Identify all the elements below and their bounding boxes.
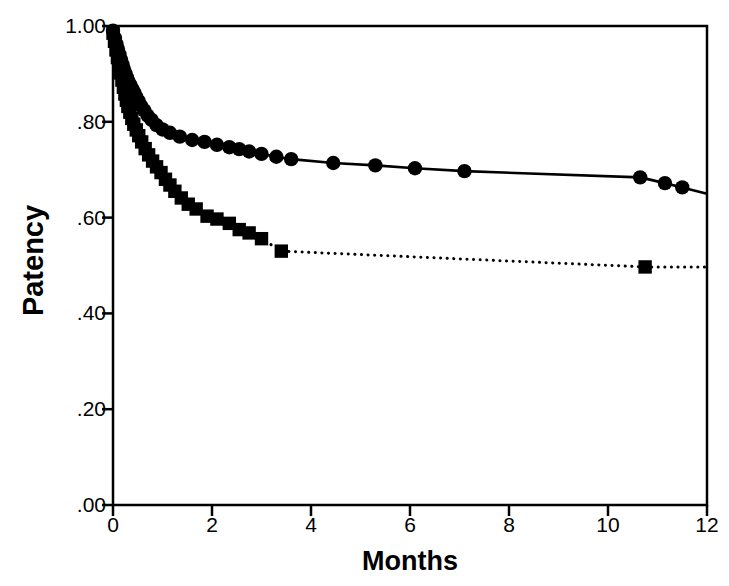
y-tick-label: .60 <box>44 206 106 230</box>
series-line-square <box>113 33 707 267</box>
data-point-circle <box>675 180 689 194</box>
x-tick-label: 10 <box>596 513 619 537</box>
data-point-circle <box>254 147 268 161</box>
x-tick-label: 6 <box>404 513 416 537</box>
data-point-circle <box>284 152 298 166</box>
data-point-circle <box>173 129 187 143</box>
x-axis-title: Months <box>113 546 707 577</box>
data-point-circle <box>326 156 340 170</box>
data-point-circle <box>658 176 672 190</box>
data-point-circle <box>197 135 211 149</box>
x-tick-label: 4 <box>305 513 317 537</box>
data-point-circle <box>269 150 283 164</box>
data-series-group <box>106 24 707 274</box>
patency-chart-figure: Patency 1.00.80.60.40.20.00 Months 02468… <box>0 0 729 586</box>
x-tick-label: 0 <box>107 513 119 537</box>
data-point-circle <box>368 158 382 172</box>
x-tick-label: 2 <box>206 513 218 537</box>
x-tick-label: 12 <box>695 513 718 537</box>
data-point-square <box>242 226 255 239</box>
x-tick-label: 8 <box>503 513 515 537</box>
data-point-circle <box>210 138 224 152</box>
y-tick-label: .40 <box>44 301 106 325</box>
data-point-circle <box>242 144 256 158</box>
data-point-square <box>255 232 268 245</box>
y-axis-tick-labels: 1.00.80.60.40.20.00 <box>40 0 106 586</box>
data-point-square <box>638 260 651 273</box>
y-tick-label: .20 <box>44 397 106 421</box>
plot-area <box>0 0 729 586</box>
data-point-circle <box>408 161 422 175</box>
data-point-square <box>275 244 288 257</box>
y-tick-label: .80 <box>44 110 106 134</box>
data-point-square <box>210 212 223 225</box>
y-tick-label: 1.00 <box>44 14 106 38</box>
data-point-circle <box>185 133 199 147</box>
data-point-circle <box>457 164 471 178</box>
y-tick-label: .00 <box>44 493 106 517</box>
data-point-circle <box>633 170 647 184</box>
